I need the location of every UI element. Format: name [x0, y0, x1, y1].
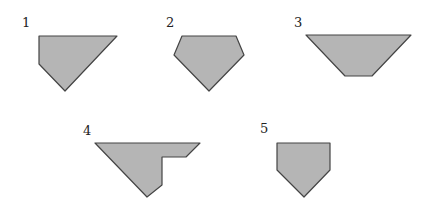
shape-5-label: 5 [260, 121, 268, 136]
shape-5-group: 5 [260, 121, 330, 197]
shape-1-polygon [39, 36, 117, 91]
shape-4-group: 4 [83, 123, 200, 197]
shape-2-polygon [174, 36, 244, 91]
shapes-diagram: 1 2 3 4 5 [0, 0, 431, 217]
shape-3-label: 3 [294, 15, 302, 30]
shape-3-polygon [306, 35, 411, 76]
shape-2-label: 2 [166, 15, 174, 30]
shape-4-polygon [95, 143, 200, 197]
shape-1-group: 1 [22, 15, 117, 91]
shape-5-polygon [277, 143, 330, 197]
shape-3-group: 3 [294, 15, 411, 76]
shape-1-label: 1 [22, 15, 30, 30]
shape-2-group: 2 [166, 15, 244, 91]
shape-4-label: 4 [83, 123, 91, 138]
